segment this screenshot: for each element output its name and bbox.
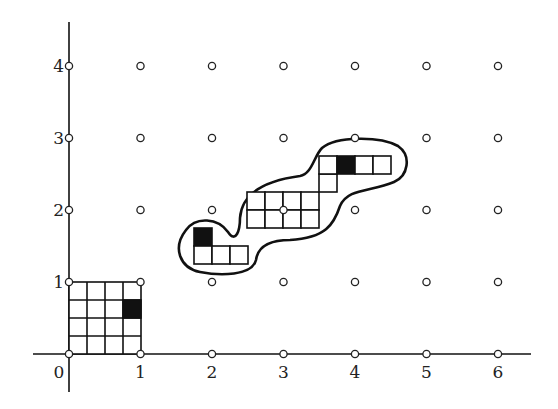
lattice-point xyxy=(280,62,287,69)
lattice-point xyxy=(494,134,501,141)
x-tick-label: 6 xyxy=(493,362,504,382)
lattice-point xyxy=(494,278,501,285)
y-tick-label: 3 xyxy=(53,128,64,148)
lattice-point xyxy=(351,350,358,357)
unit-square-grid xyxy=(69,282,141,354)
lattice-point xyxy=(280,350,287,357)
x-tick-label: 4 xyxy=(350,362,361,382)
lattice-point xyxy=(494,206,501,213)
lattice-point xyxy=(494,62,501,69)
lattice-point xyxy=(423,278,430,285)
lattice-point xyxy=(351,278,358,285)
x-tick-label: 0 xyxy=(54,362,65,382)
lattice-point xyxy=(208,206,215,213)
lattice-point xyxy=(65,134,72,141)
lattice-point xyxy=(137,278,144,285)
lattice-point xyxy=(351,134,358,141)
lattice-point xyxy=(65,278,72,285)
x-tick-label: 5 xyxy=(421,362,432,382)
lattice-point xyxy=(208,134,215,141)
y-tick-label: 1 xyxy=(53,272,64,292)
lattice-point xyxy=(351,206,358,213)
unit-square-filled-cell xyxy=(123,300,141,318)
lattice-point xyxy=(423,206,430,213)
y-tick-labels: 1234 xyxy=(53,56,64,292)
x-tick-labels: 0123456 xyxy=(54,362,504,382)
lattice-point xyxy=(65,350,72,357)
lattice-diagram: 0123456 1234 xyxy=(0,0,558,409)
lattice-point xyxy=(137,206,144,213)
lattice-point xyxy=(208,62,215,69)
lattice-point xyxy=(423,62,430,69)
y-tick-label: 2 xyxy=(53,200,64,220)
x-tick-label: 1 xyxy=(135,362,146,382)
lattice-point xyxy=(280,278,287,285)
blob-left-group xyxy=(194,228,248,264)
lattice-point xyxy=(494,350,501,357)
lattice-point xyxy=(65,62,72,69)
lattice-point xyxy=(280,134,287,141)
blob-filled-cell-left xyxy=(194,228,212,246)
lattice-point xyxy=(208,350,215,357)
lattice-point xyxy=(137,62,144,69)
lattice-point xyxy=(137,134,144,141)
lattice-point xyxy=(65,206,72,213)
x-tick-label: 2 xyxy=(207,362,218,382)
lattice-point xyxy=(280,206,287,213)
lattice-point xyxy=(423,134,430,141)
x-tick-label: 3 xyxy=(278,362,289,382)
lattice-point xyxy=(208,278,215,285)
blob-filled-cell-top xyxy=(337,156,355,174)
lattice-point xyxy=(423,350,430,357)
y-tick-label: 4 xyxy=(53,56,64,76)
lattice-point xyxy=(351,62,358,69)
lattice-point xyxy=(137,350,144,357)
